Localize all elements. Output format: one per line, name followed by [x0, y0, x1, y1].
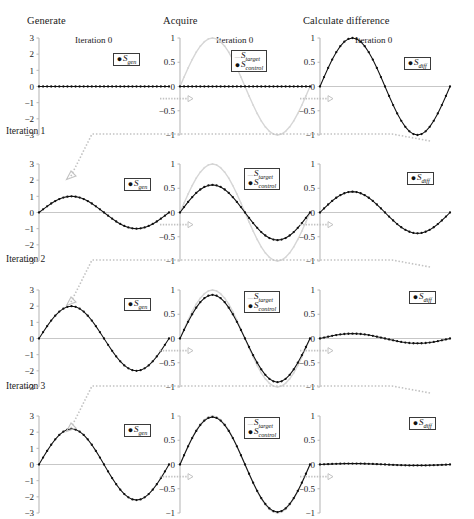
series-marker: [380, 207, 382, 209]
feedback-arrow-icon: [300, 222, 333, 228]
series-marker: [372, 58, 374, 60]
series-marker: [123, 85, 125, 87]
legend-sub-sdiff: diff: [424, 422, 432, 429]
series-marker: [50, 319, 52, 321]
series-marker: [83, 85, 85, 87]
series-marker: [347, 462, 349, 464]
series-marker: [70, 428, 72, 430]
series-marker: [224, 297, 226, 299]
series-marker: [66, 306, 68, 308]
series-marker: [359, 462, 361, 464]
series-marker: [135, 228, 137, 230]
series-marker: [331, 58, 333, 60]
plot-row4-generate: 3210−1−2−3: [13, 408, 177, 519]
series-marker: [368, 334, 370, 336]
y-tick-label: 0.5: [164, 57, 176, 67]
series-marker: [408, 130, 410, 132]
series-marker: [408, 342, 410, 344]
series-marker: [228, 303, 230, 305]
series-marker: [256, 239, 258, 241]
series-marker: [135, 85, 137, 87]
series-marker: [284, 507, 286, 509]
series-marker: [219, 85, 221, 87]
series-marker: [327, 203, 329, 205]
series-marker: [111, 477, 113, 479]
column-header-acquire: Acquire: [163, 15, 198, 26]
series-marker: [87, 200, 89, 202]
series-marker: [211, 416, 213, 418]
series-marker: [127, 496, 129, 498]
y-tick-label: 1: [30, 192, 35, 202]
series-marker: [91, 202, 93, 204]
series-marker: [215, 85, 217, 87]
series-marker: [384, 463, 386, 465]
series-marker: [256, 85, 258, 87]
series-marker: [277, 260, 279, 262]
series-marker: [95, 325, 97, 327]
series-marker: [46, 325, 48, 327]
series-marker: [260, 231, 262, 233]
series-marker: [244, 85, 246, 87]
series-marker: [376, 335, 378, 337]
series-marker: [273, 133, 275, 135]
series-marker: [281, 133, 283, 135]
series-marker: [441, 464, 443, 466]
series-marker: [99, 85, 101, 87]
series-marker: [372, 200, 374, 202]
y-tick-label: −3: [24, 382, 34, 392]
series-marker: [240, 329, 242, 331]
y-tick-label: 0: [171, 334, 176, 344]
series-marker: [277, 134, 279, 136]
series-marker: [236, 193, 238, 195]
series-marker: [412, 133, 414, 135]
series-marker: [203, 297, 205, 299]
dot-marker-icon: ●: [247, 302, 254, 311]
series-marker: [207, 295, 209, 297]
series-marker: [289, 252, 291, 254]
series-marker: [424, 231, 426, 233]
series-marker: [416, 464, 418, 466]
series-marker: [404, 464, 406, 466]
y-tick-label: −1: [305, 130, 315, 140]
series-marker: [248, 217, 250, 219]
series-marker: [148, 493, 150, 495]
y-tick-label: 1: [30, 66, 35, 76]
series-marker: [339, 333, 341, 335]
series-marker: [224, 301, 226, 303]
y-tick-label: 1: [311, 33, 316, 43]
y-tick-label: 1: [311, 285, 316, 295]
series-marker: [276, 85, 278, 87]
y-tick-label: −1: [24, 224, 34, 234]
series-marker: [264, 378, 266, 380]
feedback-arrow-icon: [160, 222, 193, 228]
series-marker: [115, 220, 117, 222]
series-marker: [74, 85, 76, 87]
legend-s-gen-row2: ●Sgen: [124, 178, 151, 191]
plot-row2-generate: 3210−1−2−3: [13, 156, 177, 269]
series-marker: [54, 85, 56, 87]
series-marker: [215, 295, 217, 297]
series-marker: [392, 219, 394, 221]
series-marker: [355, 462, 357, 464]
series-marker: [384, 337, 386, 339]
y-tick-label: 3: [30, 411, 35, 421]
series-marker: [437, 112, 439, 114]
series-marker: [46, 85, 48, 87]
series-marker: [268, 378, 270, 380]
y-tick-label: 0: [30, 82, 35, 92]
legend-target-control-row3: –Starget ●Scontrol: [244, 291, 280, 313]
series-marker: [103, 85, 105, 87]
series-marker: [388, 95, 390, 97]
series-marker: [183, 76, 185, 78]
series-marker: [78, 196, 80, 198]
series-marker: [179, 85, 181, 87]
y-tick-label: 2: [30, 427, 35, 437]
series-marker: [323, 463, 325, 465]
series-marker: [355, 38, 357, 40]
y-tick-label: −0.5: [299, 232, 316, 242]
legend-sub-scontrol: control: [259, 305, 277, 312]
series-marker: [103, 463, 105, 465]
y-tick-label: 1: [171, 411, 176, 421]
series-marker: [107, 344, 109, 346]
series-marker: [191, 313, 193, 315]
